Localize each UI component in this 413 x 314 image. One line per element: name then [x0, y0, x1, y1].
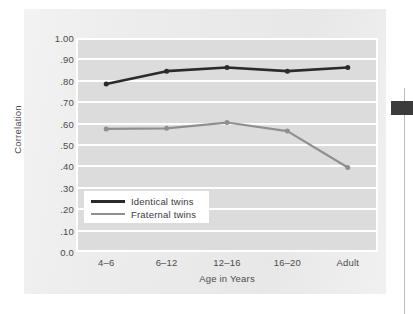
- legend-label-identical-twins: Identical twins: [131, 196, 194, 207]
- data-point-marker: [225, 65, 230, 70]
- y-axis-tick-label: .20: [30, 204, 74, 215]
- y-axis-tick-label: .80: [30, 75, 74, 86]
- x-axis-tick-label: 4–6: [76, 257, 136, 268]
- data-point-marker: [104, 126, 109, 131]
- y-axis-tick-label: 0.0: [30, 247, 74, 258]
- data-point-marker: [164, 126, 169, 131]
- series-line: [106, 123, 348, 168]
- data-point-marker: [285, 69, 290, 74]
- legend-label-fraternal-twins: Fraternal twins: [131, 209, 196, 220]
- legend-entry-fraternal-twins: Fraternal twins: [91, 208, 196, 220]
- y-axis-tick-label: .90: [30, 54, 74, 65]
- data-point-marker: [345, 165, 350, 170]
- y-axis-tick-labels: 1.00.90.80.70.60.50.40.30.20.100.0: [30, 38, 74, 252]
- y-axis-tick-label: .40: [30, 161, 74, 172]
- y-axis-tick-label: .60: [30, 118, 74, 129]
- x-axis-tick-label: Adult: [318, 257, 378, 268]
- x-axis-tick-label: 16–20: [257, 257, 317, 268]
- legend-swatch-fraternal-twins: [91, 213, 125, 215]
- data-point-marker: [345, 65, 350, 70]
- series-identical-twins: [104, 65, 351, 86]
- y-axis-tick-label: 1.00: [30, 33, 74, 44]
- x-axis-tick-label: 6–12: [137, 257, 197, 268]
- data-point-marker: [104, 82, 109, 87]
- series-fraternal-twins: [104, 120, 351, 170]
- twin-correlation-line-chart: 1.00.90.80.70.60.50.40.30.20.100.0 Corre…: [0, 0, 413, 314]
- x-axis-tick-label: 12–16: [197, 257, 257, 268]
- data-point-marker: [164, 69, 169, 74]
- y-axis-tick-label: .10: [30, 225, 74, 236]
- data-point-marker: [285, 129, 290, 134]
- x-axis-title: Age in Years: [76, 273, 378, 284]
- chart-legend: Identical twins Fraternal twins: [84, 191, 209, 223]
- y-axis-tick-label: .30: [30, 182, 74, 193]
- legend-entry-identical-twins: Identical twins: [91, 195, 194, 207]
- y-axis-tick-label: .70: [30, 97, 74, 108]
- scanned-figure-page: 1.00.90.80.70.60.50.40.30.20.100.0 Corre…: [0, 0, 413, 314]
- x-axis-tick-labels: 4–66–1212–1616–20Adult: [76, 257, 378, 271]
- legend-swatch-identical-twins: [91, 200, 125, 203]
- y-axis-title: Correlation: [12, 85, 23, 175]
- y-axis-tick-label: .50: [30, 140, 74, 151]
- data-point-marker: [225, 120, 230, 125]
